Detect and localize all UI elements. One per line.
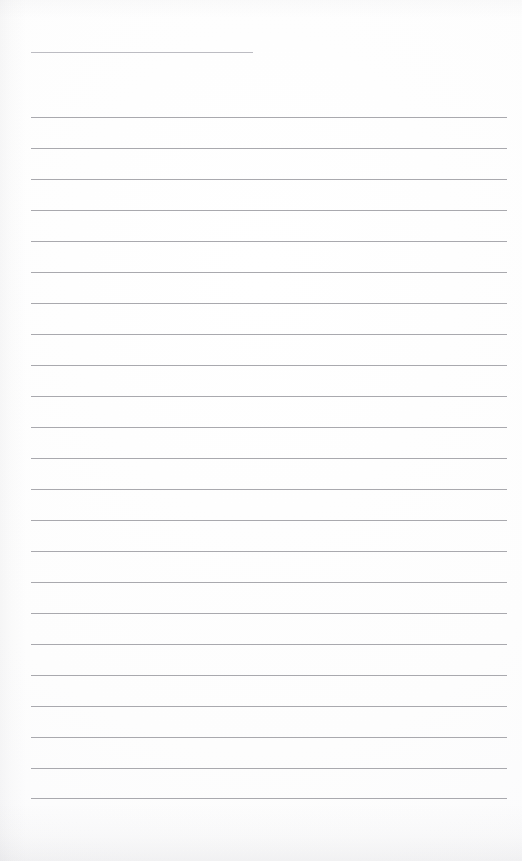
ruled-line <box>31 675 507 676</box>
ruled-line-text[interactable] <box>34 745 506 769</box>
ruled-line-text[interactable] <box>34 683 506 707</box>
ruled-line <box>31 210 507 211</box>
ruled-line <box>31 179 507 180</box>
ruled-line-text[interactable] <box>34 218 506 242</box>
ruled-line <box>31 272 507 273</box>
ruled-line <box>31 365 507 366</box>
ruled-line <box>31 768 507 769</box>
ruled-line <box>31 582 507 583</box>
ruled-line <box>31 551 507 552</box>
ruled-line-text[interactable] <box>34 156 506 180</box>
ruled-line-text[interactable] <box>34 466 506 490</box>
ruled-line-text[interactable] <box>34 435 506 459</box>
ruled-line <box>31 303 507 304</box>
ruled-line <box>31 334 507 335</box>
ruled-line <box>31 241 507 242</box>
ruled-line-text[interactable] <box>34 559 506 583</box>
ruled-line <box>31 396 507 397</box>
ruled-line <box>31 117 507 118</box>
ruled-line <box>31 520 507 521</box>
ruled-line <box>31 737 507 738</box>
ruled-line <box>31 148 507 149</box>
ruled-line <box>31 458 507 459</box>
ruled-line-text[interactable] <box>34 311 506 335</box>
ruled-line-text[interactable] <box>34 125 506 149</box>
ruled-line-text[interactable] <box>34 373 506 397</box>
scan-left-shading <box>0 0 26 861</box>
ruled-line-text[interactable] <box>34 528 506 552</box>
scanned-page <box>0 0 522 861</box>
scan-top-shading <box>0 0 522 18</box>
ruled-line <box>31 798 507 799</box>
ruled-line <box>31 706 507 707</box>
ruled-line-text[interactable] <box>34 621 506 645</box>
ruled-line-text[interactable] <box>34 775 506 799</box>
ruled-line-text[interactable] <box>34 187 506 211</box>
ruled-line-text[interactable] <box>34 280 506 304</box>
ruled-line-text[interactable] <box>34 249 506 273</box>
ruled-line <box>31 644 507 645</box>
ruled-line-text[interactable] <box>34 497 506 521</box>
title-line-text[interactable] <box>34 33 252 53</box>
ruled-line-text[interactable] <box>34 94 506 118</box>
ruled-line-text[interactable] <box>34 652 506 676</box>
ruled-line-text[interactable] <box>34 590 506 614</box>
ruled-line <box>31 613 507 614</box>
ruled-line <box>31 427 507 428</box>
ruled-line-text[interactable] <box>34 714 506 738</box>
ruled-line-text[interactable] <box>34 342 506 366</box>
scan-bottom-shading <box>0 803 522 861</box>
title-rule <box>31 52 253 53</box>
ruled-line <box>31 489 507 490</box>
ruled-line-text[interactable] <box>34 404 506 428</box>
